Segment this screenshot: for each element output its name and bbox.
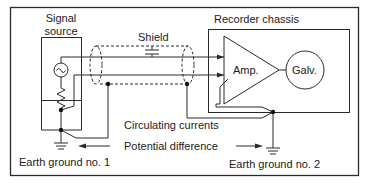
shield-end-right (182, 46, 194, 84)
shield-end-left (90, 46, 102, 84)
arrow-head-icon (217, 55, 224, 60)
signal-source-label: Signal source (41, 13, 81, 37)
sine-wave-icon (57, 69, 66, 73)
arrow-right-icon (255, 144, 263, 149)
ground-icon-2 (266, 148, 280, 154)
signal-source-label-line2: source (41, 26, 81, 37)
capacitor-icon (145, 46, 159, 57)
node-dot (271, 110, 275, 114)
node-dot (185, 82, 189, 86)
shield-label: Shield (138, 32, 169, 43)
node-dot (106, 82, 110, 86)
circulating-currents-label: Circulating currents (124, 120, 219, 131)
resistor-icon (57, 88, 65, 108)
earth-ground-1-label: Earth ground no. 1 (19, 157, 110, 168)
potential-difference-label: Potential difference (124, 141, 218, 152)
node-dot (59, 108, 63, 112)
arrow-head-icon (217, 73, 224, 78)
signal-source-label-line1: Signal (41, 13, 81, 24)
recorder-chassis-label: Recorder chassis (214, 14, 299, 25)
amplifier-label: Amp. (233, 65, 259, 76)
signal-source-box (42, 38, 82, 101)
node-dot (59, 128, 63, 132)
galvanometer-label: Galv. (292, 65, 317, 76)
arrow-left-icon (78, 144, 86, 149)
earth-ground-2-label: Earth ground no. 2 (229, 159, 320, 170)
